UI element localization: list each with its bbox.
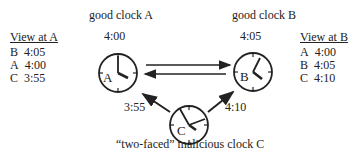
view-at-a-row: C 3:55 — [10, 71, 45, 85]
clock-a-label: A — [103, 71, 112, 85]
clock-b-label: B — [240, 70, 249, 84]
view-at-b-row: C 4:10 — [300, 71, 335, 85]
clock-b-time: 4:05 — [240, 29, 261, 43]
view-at-a-row: A 4:00 — [10, 58, 46, 72]
view-at-a-row: B 4:05 — [10, 45, 45, 59]
view-at-a-heading: View at A — [10, 30, 58, 44]
view-at-b-row: B 4:05 — [300, 58, 335, 72]
clock-c-time-to-a: 3:55 — [124, 100, 145, 114]
clock-a-time: 4:00 — [104, 29, 125, 43]
arrow-c-to-a — [143, 94, 170, 112]
clock-b-title: good clock B — [232, 8, 296, 22]
view-at-b-row: A 4:00 — [300, 45, 336, 59]
view-at-b-heading: View at B — [300, 30, 348, 44]
clock-c-title: “two-faced” malicious clock C — [116, 137, 264, 151]
clock-a-title: good clock A — [89, 8, 153, 22]
clock-c-label: C — [177, 124, 186, 138]
clock-c-time-to-b: 4:10 — [225, 100, 246, 114]
